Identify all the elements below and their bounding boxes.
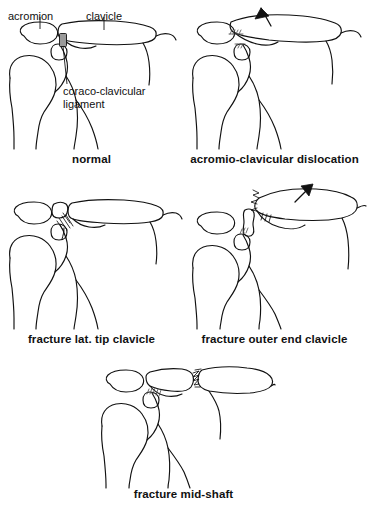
fracture-line-lateral-tip xyxy=(57,213,73,231)
coraco-clavicular-ligament-intact xyxy=(60,34,67,47)
panel-normal-illustration xyxy=(0,0,183,150)
panel-ac-dislocation: acromio-clavicular dislocation xyxy=(183,0,366,175)
clavicle-lateral-segment xyxy=(146,369,193,392)
panel-caption-ac-dislocation: acromio-clavicular dislocation xyxy=(167,153,371,165)
panel-normal: acromion clavicle coraco-clavicular liga… xyxy=(0,0,183,175)
displacement-arrow-up xyxy=(255,8,271,26)
clavicle-medial-segment xyxy=(198,367,272,393)
panel-caption-fracture-mid-shaft: fracture mid-shaft xyxy=(92,488,275,500)
displacement-arrow-up xyxy=(295,184,313,202)
clavicle-label: clavicle xyxy=(86,10,122,23)
ligament-label-line2: ligament xyxy=(63,98,105,111)
panel-fracture-lat-tip: fracture lat. tip clavicle xyxy=(0,180,183,355)
panel-caption-normal: normal xyxy=(0,153,183,165)
acromion-label: acromion xyxy=(8,10,53,23)
ligament-label-line1: coraco-clavicular xyxy=(63,85,146,98)
panel-fracture-mid-shaft-illustration xyxy=(92,360,275,488)
panel-caption-fracture-lat-tip: fracture lat. tip clavicle xyxy=(0,333,183,345)
panel-ac-dislocation-illustration xyxy=(183,0,366,150)
outer-end-fragment xyxy=(243,209,254,236)
panel-fracture-outer-end: fracture outer end clavicle xyxy=(183,180,366,355)
panel-fracture-mid-shaft: fracture mid-shaft xyxy=(92,360,275,513)
panel-fracture-lat-tip-illustration xyxy=(0,180,183,330)
panel-fracture-outer-end-illustration xyxy=(183,180,366,330)
panel-caption-fracture-outer-end: fracture outer end clavicle xyxy=(173,333,371,345)
